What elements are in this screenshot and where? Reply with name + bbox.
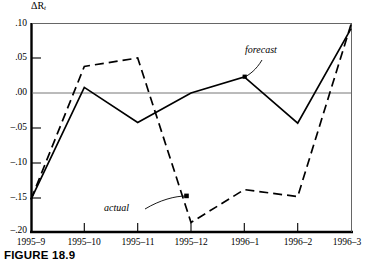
x-tick-label-3: 1995–12	[162, 238, 220, 248]
y-tick-label-1: .05	[1, 53, 27, 63]
x-tick-label-0: 1995–9	[2, 238, 60, 248]
y-tick-label-2: .00	[1, 88, 27, 98]
figure-container: ΔRt	[0, 0, 372, 268]
y-tick-label-0: .10	[1, 19, 27, 29]
annotation-leader-actual	[145, 194, 189, 209]
y-tick-label-3: –.05	[1, 123, 27, 133]
x-tick-label-4: 1996–1	[216, 238, 274, 248]
annotation-actual-label: actual	[104, 203, 129, 213]
y-tick-label-4: –.10	[1, 158, 27, 168]
chart-plot-area	[0, 0, 372, 268]
annotation-leader-forecast	[243, 60, 262, 79]
series-line-forecast	[31, 29, 351, 200]
x-tick-label-5: 1996–2	[269, 238, 327, 248]
y-tick-label-5: –.15	[1, 193, 27, 203]
y-tick-marks	[32, 58, 41, 198]
x-tick-label-6: 1996–3	[322, 238, 372, 248]
x-tick-marks	[84, 223, 297, 232]
series-line-actual	[31, 24, 351, 222]
x-tick-label-1: 1995–10	[55, 238, 113, 248]
annotation-forecast-label: forecast	[245, 45, 277, 55]
y-tick-label-6: –.20	[1, 226, 27, 236]
figure-caption: FIGURE 18.9	[4, 250, 75, 262]
x-tick-label-2: 1995–11	[109, 238, 167, 248]
